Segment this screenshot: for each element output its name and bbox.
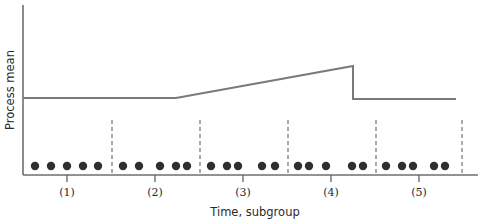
sample-dot <box>409 162 417 170</box>
sample-dot <box>430 162 438 170</box>
process-mean-diagram: Process mean Time, subgroup (1)(2)(3)(4)… <box>0 0 480 223</box>
sample-dot <box>207 162 215 170</box>
sample-dot <box>223 162 231 170</box>
y-axis-label: Process mean <box>3 50 17 130</box>
subgroup-labels: (1)(2)(3)(4)(5) <box>59 186 427 199</box>
subgroup-ticks <box>67 175 419 182</box>
sample-dot <box>135 162 143 170</box>
sample-dot <box>183 162 191 170</box>
subgroup-label: (4) <box>323 186 339 199</box>
subgroup-label: (2) <box>147 186 163 199</box>
sample-dot <box>305 162 313 170</box>
process-mean-line <box>23 66 456 99</box>
sample-dots <box>31 162 449 170</box>
sample-dot <box>172 162 180 170</box>
sample-dot <box>156 162 164 170</box>
sample-dot <box>31 162 39 170</box>
sample-dot <box>234 162 242 170</box>
sample-dot <box>94 162 102 170</box>
sample-dot <box>359 162 367 170</box>
sample-dot <box>398 162 406 170</box>
sample-dot <box>348 162 356 170</box>
sample-dot <box>47 162 55 170</box>
sample-dot <box>322 162 330 170</box>
sample-dot <box>258 162 266 170</box>
sample-dot <box>441 162 449 170</box>
x-axis-label: Time, subgroup <box>209 205 299 219</box>
sample-dot <box>294 162 302 170</box>
sample-dot <box>63 162 71 170</box>
subgroup-label: (1) <box>59 186 75 199</box>
sample-dot <box>119 162 127 170</box>
sample-dot <box>79 162 87 170</box>
sample-dot <box>271 162 279 170</box>
subgroup-label: (5) <box>411 186 427 199</box>
sample-dot <box>382 162 390 170</box>
subgroup-label: (3) <box>235 186 251 199</box>
